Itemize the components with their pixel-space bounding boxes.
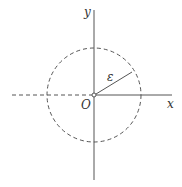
y-axis-label: y bbox=[83, 5, 91, 19]
x-axis-label: x bbox=[167, 97, 174, 111]
epsilon-label: ε bbox=[107, 70, 113, 84]
epsilon-neighborhood-diagram: y x O ε bbox=[0, 0, 182, 187]
radius-segment bbox=[96, 72, 132, 94]
origin-open-point bbox=[92, 93, 96, 97]
origin-label: O bbox=[81, 98, 91, 112]
